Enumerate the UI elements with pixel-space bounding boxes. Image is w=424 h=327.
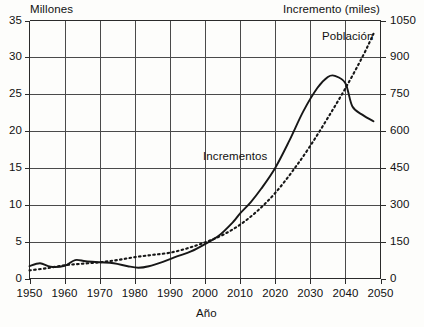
x-tick-1950: 1950 <box>13 287 47 299</box>
series-line-poblacion <box>30 34 374 271</box>
y-tick-left-20: 20 <box>0 124 22 136</box>
x-tick-1960: 1960 <box>48 287 82 299</box>
y-tick-right-300: 300 <box>390 198 422 210</box>
y-tick-right-600: 600 <box>390 124 422 136</box>
x-tick-2050: 2050 <box>364 287 398 299</box>
left-axis-title: Millones <box>30 3 73 15</box>
x-tick-2000: 2000 <box>188 287 222 299</box>
y-tick-left-10: 10 <box>0 198 22 210</box>
y-tick-right-900: 900 <box>390 50 422 62</box>
y-tick-left-5: 5 <box>0 235 22 247</box>
y-tick-left-25: 25 <box>0 87 22 99</box>
y-tick-left-30: 30 <box>0 50 22 62</box>
x-tick-1990: 1990 <box>153 287 187 299</box>
y-tick-left-15: 15 <box>0 161 22 173</box>
y-tick-right-0: 0 <box>390 272 422 284</box>
x-tick-2030: 2030 <box>293 287 327 299</box>
y-tick-right-750: 750 <box>390 87 422 99</box>
series-line-incrementos <box>30 75 374 268</box>
x-tick-2040: 2040 <box>328 287 362 299</box>
y-tick-right-1050: 1050 <box>390 14 422 26</box>
right-axis-title: Incremento (miles) <box>283 3 380 15</box>
chart-plot-area <box>0 0 424 327</box>
y-tick-right-450: 450 <box>390 161 422 173</box>
x-tick-1970: 1970 <box>83 287 117 299</box>
x-tick-1980: 1980 <box>118 287 152 299</box>
y-tick-left-35: 35 <box>0 14 22 26</box>
annotation-incrementos: Incrementos <box>203 150 267 162</box>
y-tick-right-150: 150 <box>390 235 422 247</box>
annotation-poblacion: Población <box>322 30 373 42</box>
x-axis-title: Año <box>196 307 217 319</box>
y-tick-left-0: 0 <box>0 272 22 284</box>
x-tick-2010: 2010 <box>223 287 257 299</box>
population-increments-chart: Millones Incremento (miles) Año Població… <box>0 0 424 327</box>
x-tick-2020: 2020 <box>258 287 292 299</box>
